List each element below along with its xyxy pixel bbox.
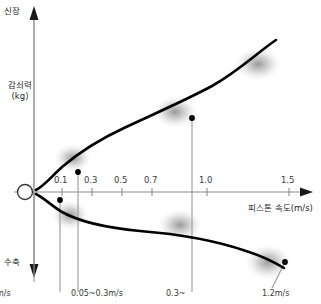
- x-tick-label-0.3: 0.3: [84, 176, 97, 185]
- x-axis-title: 피스톤 속도(m/s): [248, 201, 313, 213]
- callout-label-max-speed: 1.2m/s: [262, 289, 289, 298]
- axis-bottom-direction-label: 수축: [4, 255, 20, 267]
- x-tick-label-1.0: 1.0: [199, 176, 212, 185]
- x-tick-label-1.5: 1.5: [281, 176, 294, 185]
- y-axis-up-arrow: [30, 6, 39, 20]
- data-point: [282, 259, 288, 265]
- data-point: [75, 169, 81, 175]
- chart-canvas: [0, 0, 321, 304]
- origin-marker: [18, 185, 33, 200]
- highlight-blob: [233, 46, 283, 82]
- callout-label-low-speed: m/s: [0, 289, 11, 298]
- x-axis-arrow: [300, 188, 313, 197]
- axis-top-direction-label: 신장: [4, 4, 20, 16]
- x-axis: [14, 188, 313, 197]
- x-tick-label-0.7: 0.7: [144, 176, 157, 185]
- highlight-blobs: [50, 46, 293, 281]
- damping-force-chart: 신장 수축 감쇠력 (kg) 피스톤 속도(m/s) 0.1 0.3 0.5 0…: [0, 0, 321, 304]
- data-point: [57, 197, 63, 203]
- callout-label-high-speed: 0.3~: [166, 289, 185, 298]
- highlight-blob: [156, 208, 204, 242]
- data-point: [189, 115, 195, 121]
- x-tick-label-0.5: 0.5: [114, 176, 127, 185]
- x-tick-label-0.1: 0.1: [54, 176, 67, 185]
- callout-label-mid-speed: 0.05~0.3m/s: [71, 289, 123, 298]
- y-axis-title: 감쇠력 (kg): [8, 80, 32, 101]
